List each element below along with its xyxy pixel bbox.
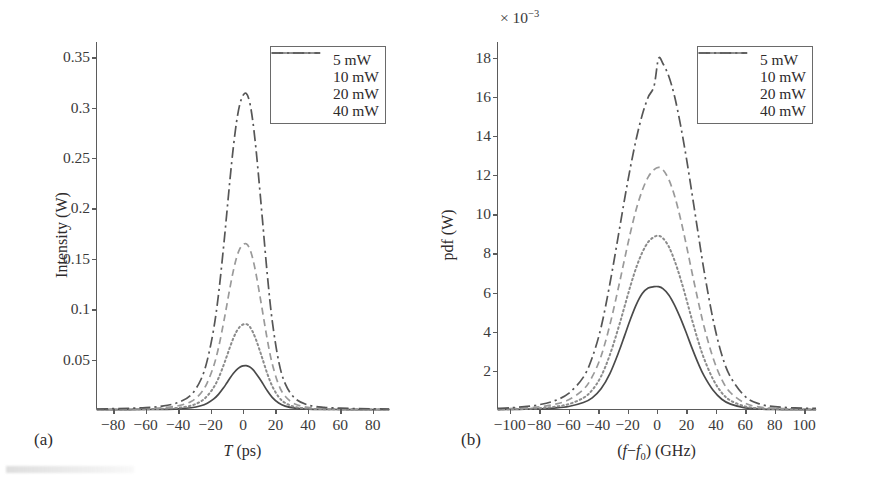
y-tick-label: 0.25 <box>63 150 90 166</box>
legend-item-label: 20 mW <box>333 86 379 102</box>
legend-item-label: 10 mW <box>760 69 806 85</box>
x-tick-label: −20 <box>198 417 222 433</box>
series-line-20-mw <box>498 167 816 409</box>
plot-area-b: × 10−3 pdf (W) (f−f0) (GHz) 5 mW10 mW20 … <box>497 42 815 410</box>
x-tick-mark <box>178 409 179 414</box>
series-line-10-mw <box>97 324 389 410</box>
legend-line-sample <box>703 88 753 100</box>
y-tick-label: 0.35 <box>63 49 90 65</box>
y-tick-label: 0.2 <box>71 201 90 217</box>
panel-tag-a: (a) <box>34 430 53 450</box>
x-tick-label: 20 <box>268 417 284 433</box>
legend-item-40-mw: 40 mW <box>276 102 379 119</box>
x-tick-label: 20 <box>679 417 695 433</box>
x-tick-label: −40 <box>166 417 190 433</box>
x-tick-label: 40 <box>300 417 316 433</box>
x-tick-mark <box>243 409 244 414</box>
x-tick-mark <box>510 409 511 414</box>
y-tick-label: 10 <box>476 207 492 223</box>
x-tick-mark <box>340 409 341 414</box>
y-tick-mark <box>493 371 498 372</box>
x-tick-mark <box>569 409 570 414</box>
series-line-5-mw <box>498 286 816 409</box>
x-tick-label: 0 <box>239 417 247 433</box>
legend-line-sample <box>276 71 326 83</box>
x-tick-label: 0 <box>653 417 661 433</box>
y-tick-mark <box>92 158 97 159</box>
legend-line-sample <box>703 71 753 83</box>
y-tick-mark <box>92 57 97 58</box>
series-line-10-mw <box>498 236 816 410</box>
series-line-5-mw <box>97 366 389 410</box>
legend-item-label: 5 mW <box>760 52 798 68</box>
y-tick-label: 0.05 <box>63 352 90 368</box>
y-tick-mark <box>493 136 498 137</box>
legend-item-label: 10 mW <box>333 69 379 85</box>
scan-artifact <box>6 466 134 473</box>
y-tick-label: 2 <box>483 363 491 379</box>
x-axis-title-a: T (ps) <box>224 442 262 460</box>
y-tick-mark <box>92 259 97 260</box>
x-tick-mark <box>775 409 776 414</box>
legend-line-sample <box>703 105 753 117</box>
y-tick-label: 0.3 <box>71 100 90 116</box>
x-axis-title-b: (f−f0) (GHz) <box>617 442 696 462</box>
y-tick-mark <box>92 208 97 209</box>
y-tick-label: 8 <box>483 246 491 262</box>
y-tick-mark <box>493 97 498 98</box>
x-tick-label: −40 <box>586 417 610 433</box>
x-tick-label: 60 <box>333 417 349 433</box>
x-tick-label: −20 <box>615 417 639 433</box>
y-tick-mark <box>493 332 498 333</box>
y-tick-mark <box>493 214 498 215</box>
x-tick-mark <box>598 409 599 414</box>
x-tick-mark <box>211 409 212 414</box>
legend-item-10-mw: 10 mW <box>703 68 806 85</box>
legend-line-sample <box>276 105 326 117</box>
plot-area-a: Intensity (W) T (ps) 5 mW10 mW20 mW40 mW… <box>96 42 388 410</box>
legend-item-40-mw: 40 mW <box>703 102 806 119</box>
x-tick-mark <box>745 409 746 414</box>
legend-item-20-mw: 20 mW <box>276 85 379 102</box>
y-tick-mark <box>493 293 498 294</box>
y-tick-label: 0.15 <box>63 251 90 267</box>
x-tick-label: 80 <box>767 417 783 433</box>
x-tick-mark <box>275 409 276 414</box>
legend-item-10-mw: 10 mW <box>276 68 379 85</box>
y-tick-label: 18 <box>476 50 492 66</box>
x-tick-mark <box>686 409 687 414</box>
x-tick-label: 100 <box>793 417 816 433</box>
y-tick-label: 6 <box>483 285 491 301</box>
series-line-40-mw <box>97 93 389 409</box>
panel-a: Intensity (W) T (ps) 5 mW10 mW20 mW40 mW… <box>0 0 437 482</box>
x-tick-label: −60 <box>557 417 581 433</box>
x-tick-label: 40 <box>708 417 724 433</box>
figure-container: Intensity (W) T (ps) 5 mW10 mW20 mW40 mW… <box>0 0 875 482</box>
x-tick-label: −80 <box>527 417 551 433</box>
y-tick-label: 4 <box>483 324 491 340</box>
panel-b: × 10−3 pdf (W) (f−f0) (GHz) 5 mW10 mW20 … <box>437 0 874 482</box>
legend-item-label: 20 mW <box>760 86 806 102</box>
x-tick-mark <box>308 409 309 414</box>
y-tick-mark <box>92 360 97 361</box>
legend-item-label: 40 mW <box>760 103 806 119</box>
axis-exponent-b: × 10−3 <box>500 8 539 27</box>
x-tick-mark <box>146 409 147 414</box>
legend-item-label: 40 mW <box>333 103 379 119</box>
x-tick-mark <box>539 409 540 414</box>
x-tick-label: −80 <box>101 417 125 433</box>
y-tick-label: 16 <box>476 89 492 105</box>
y-axis-title-b: pdf (W) <box>439 209 457 260</box>
y-tick-mark <box>493 175 498 176</box>
legend-item-20-mw: 20 mW <box>703 85 806 102</box>
y-tick-mark <box>92 309 97 310</box>
y-tick-mark <box>493 253 498 254</box>
y-tick-mark <box>92 108 97 109</box>
x-tick-label: 80 <box>365 417 381 433</box>
y-tick-label: 12 <box>476 167 492 183</box>
legend-line-sample <box>276 88 326 100</box>
legend-b: 5 mW10 mW20 mW40 mW <box>697 46 813 124</box>
x-tick-mark <box>628 409 629 414</box>
x-tick-label: 60 <box>738 417 754 433</box>
x-tick-mark <box>804 409 805 414</box>
